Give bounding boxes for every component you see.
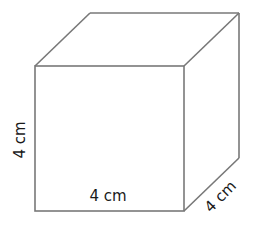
- width-label: 4 cm: [89, 187, 126, 205]
- depth-label: 4 cm: [201, 177, 240, 216]
- height-label: 4 cm: [11, 121, 29, 158]
- cube-diagram: 4 cm 4 cm 4 cm: [0, 0, 257, 228]
- edge-depth-top-left: [35, 13, 90, 66]
- edge-depth-top-right: [184, 13, 239, 66]
